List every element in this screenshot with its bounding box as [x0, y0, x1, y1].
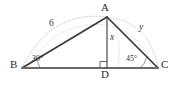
- vertex-label-b: B: [10, 59, 17, 70]
- vertex-label-c: C: [161, 59, 168, 70]
- side-label-ac-y: y: [139, 23, 143, 33]
- angle-label-c: 45°: [126, 55, 137, 63]
- side-label-altitude-x: x: [110, 33, 114, 43]
- vertex-label-d: D: [101, 69, 109, 80]
- dotted-arc-altitude-sweep: [114, 24, 119, 66]
- angle-arc-c-icon: [140, 58, 147, 69]
- angle-label-b: 30°: [32, 55, 43, 63]
- side-label-ab-length: 6: [49, 19, 54, 29]
- vertex-label-a: A: [101, 2, 109, 13]
- geometry-figure: A B C D 6 x y 30° 45°: [0, 0, 177, 90]
- triangle-diagram-svg: [0, 0, 177, 90]
